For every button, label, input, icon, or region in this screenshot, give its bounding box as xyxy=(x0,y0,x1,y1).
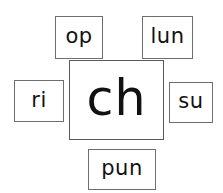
affix-card-pun[interactable]: pun xyxy=(88,149,156,190)
affix-card-su-label: su xyxy=(178,91,203,112)
affix-card-op-label: op xyxy=(65,26,92,47)
root-card-ch-label: ch xyxy=(87,74,147,123)
affix-card-su[interactable]: su xyxy=(169,82,213,123)
affix-card-pun-label: pun xyxy=(101,158,142,179)
affix-card-lun[interactable]: lun xyxy=(142,16,193,59)
affix-card-ri-label: ri xyxy=(31,90,46,111)
affix-card-lun-label: lun xyxy=(151,26,185,47)
affix-card-op[interactable]: op xyxy=(55,16,103,59)
affix-card-ri[interactable]: ri xyxy=(14,80,64,122)
root-card-ch[interactable]: ch xyxy=(69,60,164,140)
word-building-worksheet: op lun ri ch su pun xyxy=(0,0,223,193)
